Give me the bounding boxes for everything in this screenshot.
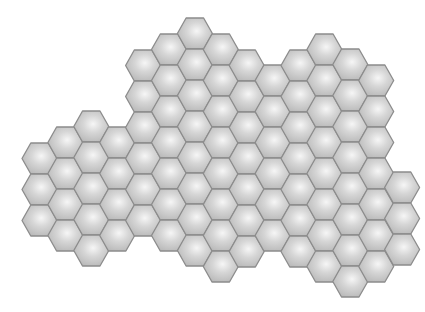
hex-board <box>0 0 425 312</box>
hex-tiles <box>22 18 420 297</box>
hex-grid <box>0 0 425 312</box>
